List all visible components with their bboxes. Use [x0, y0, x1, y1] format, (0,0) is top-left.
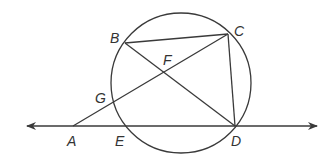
point-label-c: C: [234, 23, 245, 39]
segment-ac: [73, 34, 228, 126]
point-label-d: D: [231, 133, 241, 149]
point-label-e: E: [115, 133, 125, 149]
segment-cd: [228, 34, 235, 126]
point-label-b: B: [110, 30, 119, 46]
circle: [111, 13, 251, 153]
point-label-a: A: [66, 133, 76, 149]
segment-bd: [125, 43, 235, 126]
segment-bc: [125, 34, 228, 43]
geometry-diagram: A B C D E F G: [0, 0, 328, 158]
point-label-f: F: [163, 52, 173, 68]
point-label-g: G: [95, 90, 106, 106]
